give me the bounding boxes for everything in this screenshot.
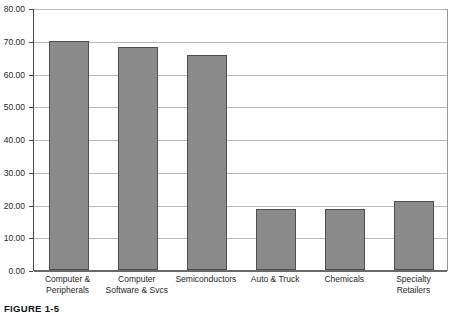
y-tick-label: 70.00 xyxy=(0,37,25,46)
y-tick-label: 40.00 xyxy=(0,136,25,145)
bar xyxy=(187,55,227,270)
y-tick-label: 20.00 xyxy=(0,201,25,210)
figure-container: 0.0010.0020.0030.0040.0050.0060.0070.008… xyxy=(0,0,457,315)
x-category-label: Computer & Peripherals xyxy=(33,274,102,295)
gridline xyxy=(34,140,447,141)
y-tick-label: 50.00 xyxy=(0,103,25,112)
bar xyxy=(118,47,158,270)
x-category-label: Semiconductors xyxy=(171,274,240,285)
gridline xyxy=(34,42,447,43)
x-category-label: Specialty Retailers xyxy=(379,274,448,295)
y-axis: 0.0010.0020.0030.0040.0050.0060.0070.008… xyxy=(0,0,33,280)
y-tick-label: 10.00 xyxy=(0,234,25,243)
y-tick-label: 30.00 xyxy=(0,168,25,177)
x-axis: Computer & PeripheralsComputer Software … xyxy=(33,274,448,302)
plot-area xyxy=(33,9,448,271)
x-category-label: Computer Software & Svcs xyxy=(102,274,171,295)
figure-caption: FIGURE 1-5 xyxy=(4,303,59,314)
y-tick-label: 60.00 xyxy=(0,70,25,79)
x-category-label: Chemicals xyxy=(310,274,379,285)
bar xyxy=(256,209,296,270)
bar xyxy=(49,41,89,270)
gridline xyxy=(34,107,447,108)
gridline xyxy=(34,238,447,239)
y-tick-label: 80.00 xyxy=(0,5,25,14)
x-category-label: Auto & Truck xyxy=(241,274,310,285)
y-tick-label: 0.00 xyxy=(0,267,25,276)
y-tick-mark xyxy=(29,271,33,272)
bar xyxy=(325,209,365,270)
bar xyxy=(394,201,434,270)
gridline xyxy=(34,9,447,10)
gridline xyxy=(34,271,447,272)
gridline xyxy=(34,75,447,76)
gridline xyxy=(34,173,447,174)
gridline xyxy=(34,206,447,207)
